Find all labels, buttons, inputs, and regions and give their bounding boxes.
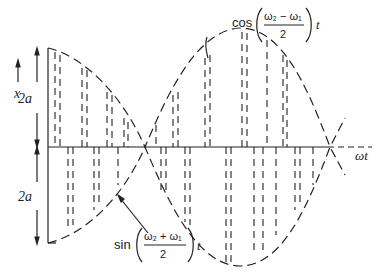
- carrier-label-leader: [120, 198, 148, 233]
- svg-text:ω₂ + ω₁: ω₂ + ω₁: [144, 230, 182, 242]
- svg-text:2: 2: [280, 28, 286, 40]
- svg-text:ω₂ − ω₁: ω₂ − ω₁: [264, 10, 302, 22]
- svg-text:2: 2: [160, 248, 166, 260]
- x-axis-arrow-icon: [16, 60, 20, 82]
- svg-text:t: t: [316, 17, 320, 32]
- upper-amplitude-dimension: [35, 48, 39, 147]
- carrier-label: sin ω₂ + ω₁ 2 t: [114, 228, 201, 262]
- lower-amplitude-dimension: [35, 147, 39, 244]
- horizontal-axis-label: ωt: [355, 148, 368, 163]
- envelope-label: cos ω₂ − ω₁ 2 t: [232, 8, 320, 42]
- envelope-label-leader: [206, 37, 208, 58]
- upper-amplitude-label: 2a: [18, 91, 32, 106]
- lower-amplitude-label: 2a: [18, 189, 32, 204]
- svg-text:sin: sin: [114, 237, 131, 252]
- svg-text:cos: cos: [232, 15, 253, 30]
- beats-diagram: x 2a 2a ωt cos ω₂ − ω₁ 2 t sin ω₂ + ω₁ 2…: [0, 0, 389, 274]
- svg-text:t: t: [197, 238, 201, 253]
